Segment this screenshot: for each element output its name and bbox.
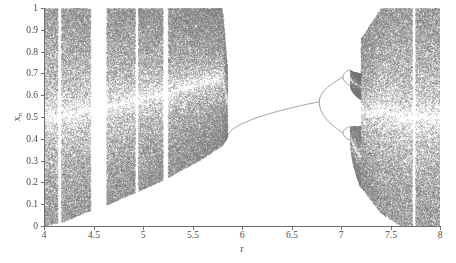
x-tick-label: 4 [42, 230, 47, 241]
y-tick-mark [41, 204, 45, 205]
x-tick-label: 5 [141, 230, 146, 241]
y-tick-mark [41, 30, 45, 31]
y-tick-label: 0 [0, 221, 38, 232]
bifurcation-figure: 44.555.566.577.5800.10.20.30.40.50.60.70… [0, 0, 456, 263]
y-tick-mark [41, 182, 45, 183]
y-tick-mark [41, 139, 45, 140]
y-tick-mark [41, 95, 45, 96]
y-axis-label: xn [11, 97, 24, 137]
y-tick-mark [41, 161, 45, 162]
y-tick-label: 0.7 [0, 68, 38, 79]
y-tick-label: 0.2 [0, 177, 38, 188]
y-tick-mark [41, 73, 45, 74]
x-tick-label: 6 [240, 230, 245, 241]
y-tick-label: 0.8 [0, 47, 38, 58]
x-tick-label: 8 [438, 230, 443, 241]
x-tick-label: 7.5 [385, 230, 397, 241]
x-tick-label: 4.5 [88, 230, 100, 241]
y-tick-label: 1 [0, 3, 38, 14]
x-axis-label: r [44, 243, 440, 254]
y-tick-mark [41, 226, 45, 227]
bifurcation-scatter-canvas [44, 8, 440, 226]
y-axis-label-base: x [11, 116, 22, 121]
y-tick-mark [41, 8, 45, 9]
y-tick-label: 0.1 [0, 199, 38, 210]
y-axis-label-subscript: n [16, 113, 24, 117]
y-tick-mark [41, 52, 45, 53]
y-tick-mark [41, 117, 45, 118]
x-tick-label: 5.5 [187, 230, 199, 241]
y-tick-label: 0.3 [0, 156, 38, 167]
x-tick-label: 6.5 [286, 230, 298, 241]
x-tick-label: 7 [339, 230, 344, 241]
y-tick-label: 0.9 [0, 25, 38, 36]
plot-area [44, 8, 440, 226]
